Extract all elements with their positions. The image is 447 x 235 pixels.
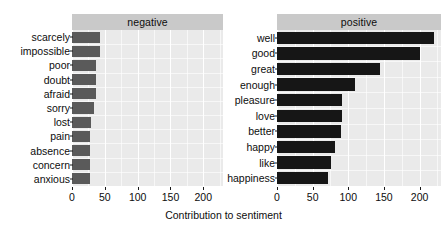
bar (72, 145, 90, 156)
bar (277, 63, 380, 76)
x-axis-tick (313, 187, 314, 190)
y-axis-tick (275, 37, 278, 38)
y-axis-tick-label: concern (33, 159, 70, 171)
x-axis-tick-label: 200 (411, 191, 429, 203)
x-axis-tick-label: 100 (340, 191, 358, 203)
y-axis-tick-label: poor (49, 59, 70, 71)
bar (277, 125, 341, 138)
y-axis-tick-label: impossible (20, 45, 70, 57)
bar (277, 172, 328, 185)
x-axis-tick (105, 187, 106, 190)
y-axis-tick-label: scarcely (31, 31, 70, 43)
x-axis-tick (72, 187, 73, 190)
bar (72, 88, 96, 99)
y-axis-tick (70, 150, 73, 151)
x-axis-tick (277, 187, 278, 190)
facet-panel-negative: negative scarcelyimpossiblepoordoubtafra… (0, 0, 227, 235)
x-axis-tick (420, 187, 421, 190)
bar (72, 131, 90, 142)
y-axis-negative: scarcelyimpossiblepoordoubtafraidsorrylo… (0, 30, 70, 186)
y-axis-tick (275, 69, 278, 70)
y-axis-tick (275, 131, 278, 132)
bar (72, 102, 94, 113)
y-axis-tick (275, 115, 278, 116)
y-axis-tick (275, 100, 278, 101)
y-axis-tick (70, 108, 73, 109)
y-axis-tick (70, 37, 73, 38)
x-axis-tick-label: 200 (195, 191, 213, 203)
y-axis-tick (70, 51, 73, 52)
y-axis-tick-label: good (252, 47, 275, 59)
y-axis-tick-label: enough (240, 79, 275, 91)
facet-strip-negative: negative (72, 14, 223, 30)
y-axis-tick (275, 84, 278, 85)
y-axis-positive: wellgoodgreatenoughpleasurelovebetterhap… (227, 30, 275, 186)
x-axis-tick (348, 187, 349, 190)
facet-strip-positive: positive (277, 14, 441, 30)
bar (72, 32, 100, 43)
x-axis-tick (138, 187, 139, 190)
y-axis-tick-label: pain (50, 130, 70, 142)
bar (72, 60, 96, 71)
y-axis-tick (70, 178, 73, 179)
y-axis-tick (275, 147, 278, 148)
y-axis-tick-label: great (251, 63, 275, 75)
y-axis-tick-label: lost (54, 116, 70, 128)
y-axis-tick-label: like (259, 157, 275, 169)
y-axis-tick-label: sorry (47, 102, 70, 114)
x-axis-tick-label: 50 (99, 191, 111, 203)
y-axis-tick (275, 53, 278, 54)
bar (277, 156, 331, 169)
bar (277, 141, 335, 154)
y-axis-tick-label: anxious (34, 173, 70, 185)
bar (72, 46, 100, 57)
y-axis-tick (70, 122, 73, 123)
chart-root: negative scarcelyimpossiblepoordoubtafra… (0, 0, 447, 235)
plot-area-positive (277, 30, 441, 186)
y-axis-tick (70, 79, 73, 80)
facet-panel-positive: positive wellgoodgreatenoughpleasurelove… (227, 0, 447, 235)
bar-series-positive (277, 30, 441, 186)
x-axis-tick-label: 0 (274, 191, 280, 203)
plot-area-negative (72, 30, 223, 186)
bar (277, 32, 434, 45)
bar (72, 117, 91, 128)
x-axis-positive: 050100150200 (277, 187, 441, 209)
x-axis-negative: 050100150200 (72, 187, 223, 209)
x-axis-tick-label: 150 (162, 191, 180, 203)
x-axis-tick (384, 187, 385, 190)
bar-series-negative (72, 30, 223, 186)
bar (277, 94, 342, 107)
x-axis-tick (170, 187, 171, 190)
y-axis-tick-label: love (256, 110, 275, 122)
bar (277, 78, 355, 91)
y-axis-tick (275, 178, 278, 179)
bar (72, 159, 90, 170)
y-axis-tick (70, 65, 73, 66)
y-axis-tick (275, 162, 278, 163)
x-axis-tick-label: 0 (69, 191, 75, 203)
y-axis-tick-label: afraid (44, 88, 70, 100)
y-axis-tick-label: pleasure (235, 94, 275, 106)
x-axis-tick (203, 187, 204, 190)
bar (277, 110, 342, 123)
bar (72, 74, 96, 85)
y-axis-tick (70, 164, 73, 165)
y-axis-tick (70, 93, 73, 94)
y-axis-tick-label: better (248, 125, 275, 137)
y-axis-tick-label: well (257, 32, 275, 44)
x-axis-tick-label: 100 (129, 191, 147, 203)
y-axis-tick-label: happy (246, 141, 275, 153)
bar (277, 47, 420, 60)
y-axis-tick-label: happiness (227, 172, 275, 184)
y-axis-tick-label: doubt (44, 74, 70, 86)
x-axis-tick-label: 50 (307, 191, 319, 203)
x-axis-tick-label: 150 (375, 191, 393, 203)
y-axis-tick (70, 136, 73, 137)
bar (72, 173, 90, 184)
x-axis-title: Contribution to sentiment (0, 209, 447, 221)
y-axis-tick-label: absence (30, 145, 70, 157)
